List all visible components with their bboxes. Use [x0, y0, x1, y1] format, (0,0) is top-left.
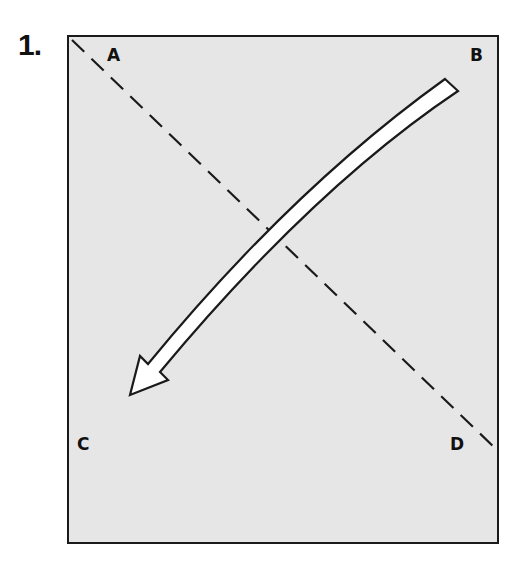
corner-label-c: C	[77, 434, 89, 454]
corner-label-b: B	[470, 45, 483, 65]
corner-label-d: D	[450, 434, 464, 454]
curved-arrow-b-to-c	[130, 79, 458, 395]
corner-label-a: A	[107, 45, 120, 65]
diagram-canvas	[0, 0, 532, 569]
